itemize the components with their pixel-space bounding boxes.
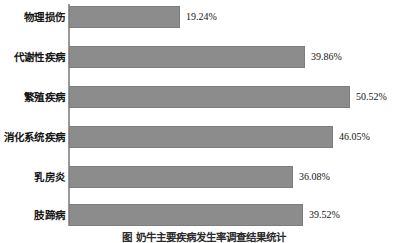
figure-caption: 图 奶牛主要疾病发生率调查结果统计 bbox=[0, 231, 408, 243]
bar-value-label: 19.24% bbox=[186, 12, 217, 22]
plot-area: 物理损伤 19.24% 代谢性疾病 39.86% 繁殖疾病 50.52% 消化系… bbox=[0, 0, 408, 228]
bar[interactable] bbox=[69, 46, 305, 68]
bar-row: 肢蹄病 39.52% bbox=[0, 204, 408, 226]
bar-value-label: 39.52% bbox=[309, 210, 340, 220]
bar-value-label: 36.08% bbox=[299, 172, 330, 182]
category-label: 繁殖疾病 bbox=[24, 92, 65, 103]
bar[interactable] bbox=[69, 166, 293, 188]
bar-row: 代谢性疾病 39.86% bbox=[0, 46, 408, 68]
bar-chart-figure: 物理损伤 19.24% 代谢性疾病 39.86% 繁殖疾病 50.52% 消化系… bbox=[0, 0, 408, 243]
bar-row: 消化系统疾病 46.05% bbox=[0, 126, 408, 148]
bar[interactable] bbox=[69, 6, 180, 28]
category-label: 肢蹄病 bbox=[34, 210, 65, 221]
bar-value-label: 39.86% bbox=[311, 52, 342, 62]
category-axis-line bbox=[68, 4, 70, 226]
bar[interactable] bbox=[69, 126, 333, 148]
bar-value-label: 50.52% bbox=[356, 92, 387, 102]
bar[interactable] bbox=[69, 204, 303, 226]
bar-row: 繁殖疾病 50.52% bbox=[0, 86, 408, 108]
bar-value-label: 46.05% bbox=[339, 132, 370, 142]
bar[interactable] bbox=[69, 86, 350, 108]
bar-row: 物理损伤 19.24% bbox=[0, 6, 408, 28]
category-label: 代谢性疾病 bbox=[14, 52, 65, 63]
category-label: 物理损伤 bbox=[24, 12, 65, 23]
figure-caption-clip: 图 奶牛主要疾病发生率调查结果统计 bbox=[0, 231, 408, 243]
category-label: 乳房炎 bbox=[34, 172, 65, 183]
bar-row: 乳房炎 36.08% bbox=[0, 166, 408, 188]
category-label: 消化系统疾病 bbox=[4, 132, 65, 143]
